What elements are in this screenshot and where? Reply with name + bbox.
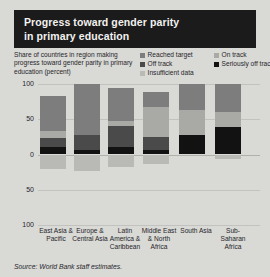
y-tick-label: 50 <box>0 115 34 122</box>
bar-segment-on-track <box>40 131 66 138</box>
bar-segment-on-track <box>179 110 205 135</box>
y-axis-tick-labels: 100 50 0 50 100 <box>0 84 34 225</box>
bar-segment-off-track <box>40 138 66 148</box>
legend-swatch-seriously-off-track <box>214 62 219 67</box>
bar-segment-off-track <box>143 137 169 150</box>
legend-column-2: On track Seriously off track <box>214 51 270 69</box>
bar-segment-reached-target <box>74 84 100 135</box>
legend-label-reached-target: Reached target <box>148 51 193 59</box>
legend-swatch-reached-target <box>140 53 145 58</box>
bar-sub-saharan-africa <box>215 84 241 225</box>
bar-segment-off-track <box>74 135 100 150</box>
bar-segment-insufficient-data <box>108 155 134 168</box>
bar-segment-seriously-off-track <box>40 147 66 154</box>
x-label-sub-saharan-africa: Sub-Saharan Africa <box>214 227 252 252</box>
bar-latin-america-caribbean <box>108 84 134 225</box>
x-label-south-asia: South Asia <box>177 227 215 235</box>
bar-segment-on-track <box>215 112 241 127</box>
bar-segment-insufficient-data <box>143 155 169 165</box>
bar-segment-insufficient-data <box>74 155 100 172</box>
bar-segment-reached-target <box>143 92 169 107</box>
bar-segment-reached-target <box>215 84 241 112</box>
chart-title-line-2: in primary education <box>24 29 246 43</box>
legend-swatch-on-track <box>214 53 219 58</box>
legend-column-1: Reached target Off track Insufficient da… <box>140 51 214 78</box>
y-tick-label: 100 <box>0 80 34 87</box>
legend-label-insufficient-data: Insufficient data <box>148 69 194 77</box>
x-label-europe-central-asia: Europe & Central Asia <box>71 227 109 243</box>
bar-segment-insufficient-data <box>215 155 241 160</box>
legend-label-on-track: On track <box>222 51 247 59</box>
bar-europe-central-asia <box>74 84 100 225</box>
legend-swatch-off-track <box>140 62 145 67</box>
x-axis-tick-labels: East Asia & Pacific Europe & Central Asi… <box>38 227 260 259</box>
bar-segment-reached-target <box>108 88 134 121</box>
bar-segment-reached-target <box>40 96 66 131</box>
x-label-latin-america-caribbean: Latin America & Caribbean <box>106 227 144 252</box>
source-note: Source: World Bank staff estimates. <box>14 263 122 270</box>
gridline-100-bottom <box>38 225 260 226</box>
bar-east-asia-pacific <box>40 84 66 225</box>
x-label-east-asia-pacific: East Asia & Pacific <box>37 227 75 243</box>
bar-segment-on-track <box>143 107 169 137</box>
legend-item-reached-target: Reached target <box>140 51 214 59</box>
legend-item-seriously-off-track: Seriously off track <box>214 60 270 68</box>
bar-segment-seriously-off-track <box>108 147 134 154</box>
y-tick-label: 0 <box>0 151 34 158</box>
legend-label-off-track: Off track <box>148 60 173 68</box>
bar-segment-seriously-off-track <box>179 135 205 155</box>
chart-title-line-1: Progress toward gender parity <box>24 15 246 29</box>
legend-item-off-track: Off track <box>140 60 214 68</box>
chart-title-banner: Progress toward gender parity in primary… <box>14 10 256 48</box>
bar-middle-east-north-africa <box>143 84 169 225</box>
legend-label-seriously-off-track: Seriously off track <box>222 60 270 68</box>
y-tick-label: 50 <box>0 186 34 193</box>
legend-item-insufficient-data: Insufficient data <box>140 69 214 77</box>
plot-area <box>38 84 260 225</box>
bar-segment-seriously-off-track <box>215 127 241 154</box>
bar-segment-insufficient-data <box>40 155 66 170</box>
bar-segment-off-track <box>108 126 134 147</box>
bar-segment-on-track <box>108 121 134 126</box>
y-tick-label: 100 <box>0 221 34 228</box>
legend-swatch-insufficient-data <box>140 71 145 76</box>
chart-figure: Progress toward gender parity in primary… <box>0 0 270 277</box>
chart-meta-row: Share of countries in region making prog… <box>14 51 260 81</box>
x-label-middle-east-north-africa: Middle East & North Africa <box>140 227 178 252</box>
legend-item-on-track: On track <box>214 51 270 59</box>
y-axis-description: Share of countries in region making prog… <box>14 51 138 76</box>
bar-south-asia <box>179 84 205 225</box>
bar-segment-reached-target <box>179 84 205 110</box>
